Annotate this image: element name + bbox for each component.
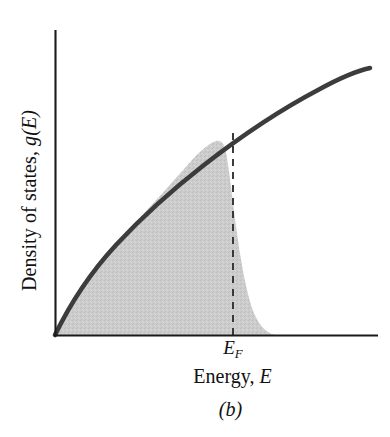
- x-axis-label: Energy, E: [150, 365, 315, 388]
- fermi-energy-label: EF: [183, 337, 283, 359]
- y-axis-label-function: g: [18, 136, 40, 146]
- y-axis-label: Density of states, g(E): [18, 68, 41, 334]
- y-axis-label-text: Density of states,: [18, 146, 40, 291]
- y-axis-label-argument: (E): [18, 110, 40, 136]
- fermi-energy-symbol: E: [223, 337, 235, 358]
- occupied-states-area: [55, 141, 275, 335]
- x-axis-label-text: Energy,: [193, 365, 259, 387]
- panel-caption: (b): [188, 398, 273, 421]
- fermi-energy-subscript: F: [235, 346, 243, 361]
- figure-container: Density of states, g(E) EF Energy, E (b): [0, 0, 390, 437]
- x-axis-label-variable: E: [259, 365, 271, 387]
